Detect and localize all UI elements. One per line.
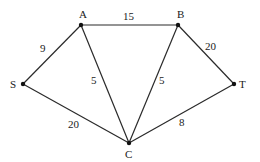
edge-weight-b-t: 20 bbox=[205, 40, 217, 52]
edge-weight-c-t: 8 bbox=[179, 116, 185, 128]
node-label-t: T bbox=[239, 78, 246, 90]
node-label-a: A bbox=[79, 8, 87, 20]
node-t bbox=[232, 82, 236, 86]
node-label-s: S bbox=[10, 78, 16, 90]
edge-weight-s-c: 20 bbox=[68, 118, 80, 130]
node-label-b: B bbox=[177, 8, 184, 20]
edge-b-t bbox=[178, 25, 234, 84]
node-a bbox=[79, 23, 83, 27]
edge-weight-s-a: 9 bbox=[40, 42, 46, 54]
edge-s-c bbox=[23, 84, 129, 143]
node-label-c: C bbox=[125, 148, 132, 160]
edge-s-a bbox=[23, 25, 81, 84]
node-b bbox=[176, 23, 180, 27]
network-graph: 9155520208 ABSTC bbox=[0, 0, 260, 162]
edge-b-c bbox=[129, 25, 178, 143]
node-s bbox=[21, 82, 25, 86]
edge-weight-b-c: 5 bbox=[159, 74, 165, 86]
edge-weight-a-c: 5 bbox=[91, 74, 97, 86]
edge-a-c bbox=[81, 25, 129, 143]
node-c bbox=[127, 141, 131, 145]
edge-c-t bbox=[129, 84, 234, 143]
edge-weight-a-b: 15 bbox=[123, 10, 135, 22]
